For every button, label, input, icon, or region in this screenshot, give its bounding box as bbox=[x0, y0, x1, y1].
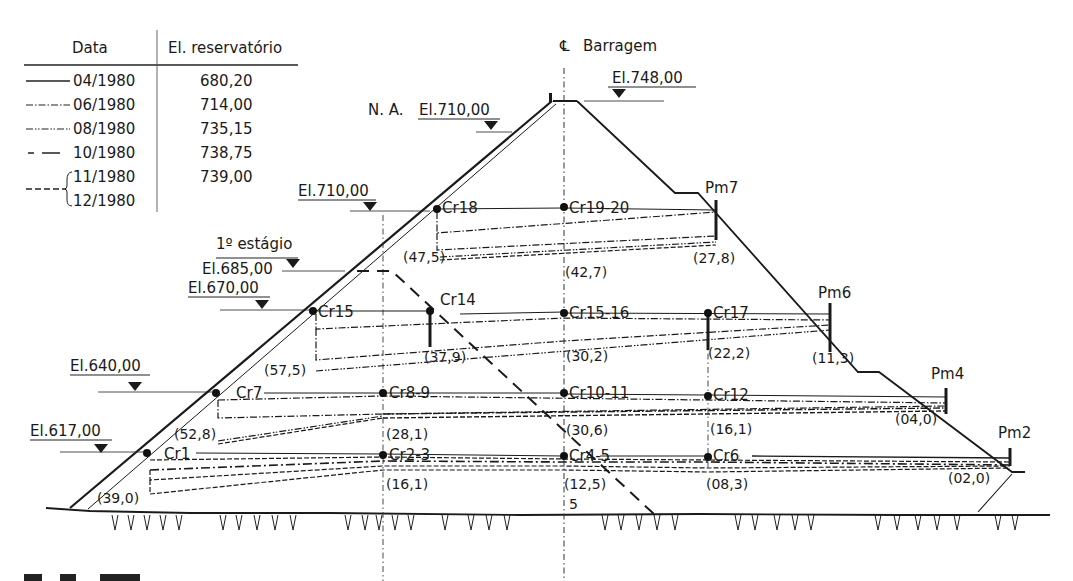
na-prefix-label: N. A. bbox=[368, 101, 404, 119]
settlement-value: (28,1) bbox=[386, 426, 428, 442]
instrument-label: Cr12 bbox=[713, 386, 749, 404]
settlement-value: (08,3) bbox=[706, 476, 748, 492]
settlement-value: (22,2) bbox=[708, 345, 750, 361]
instrument-label: Cr8-9 bbox=[389, 384, 430, 402]
crossarm-cr14 bbox=[426, 307, 434, 315]
instrument-label: Cr15 bbox=[318, 303, 354, 321]
settlement-value: (11,3) bbox=[812, 350, 854, 366]
crossarm-cr6 bbox=[704, 453, 712, 461]
instrument-label: Pm4 bbox=[931, 365, 964, 383]
legend-elevation: 738,75 bbox=[200, 144, 253, 162]
crossarm-cr19-20 bbox=[560, 203, 568, 211]
instrument-label: Cr19-20 bbox=[569, 199, 629, 217]
crossarm-cr12 bbox=[704, 392, 712, 400]
elevation-617-label: El.617,00 bbox=[30, 422, 101, 440]
legend-date: 12/1980 bbox=[73, 192, 135, 210]
dam-outline bbox=[46, 93, 1050, 515]
instrument-label: Cr18 bbox=[442, 199, 478, 217]
settlement-value: (39,0) bbox=[97, 490, 139, 506]
instrument-label: Pm2 bbox=[998, 424, 1031, 442]
settlement-value: (16,1) bbox=[386, 476, 428, 492]
legend-elevation: 714,00 bbox=[200, 96, 253, 114]
legend-date: 10/1980 bbox=[73, 144, 135, 162]
crossarm-cr4-5 bbox=[560, 452, 568, 460]
crossarm-cr1 bbox=[143, 449, 151, 457]
crossarm-cr8-9 bbox=[379, 389, 387, 397]
settlement-value: (12,5) bbox=[564, 476, 606, 492]
elevation-640-label: El.640,00 bbox=[70, 357, 141, 375]
settlement-value: (04,0) bbox=[895, 411, 937, 427]
settlement-value: (02,0) bbox=[948, 470, 990, 486]
elevation-685-label: El.685,00 bbox=[202, 260, 273, 278]
legend-date: 08/1980 bbox=[73, 120, 135, 138]
instrument-label: Cr2-3 bbox=[389, 446, 430, 464]
elevation-710-label: El.710,00 bbox=[298, 182, 369, 200]
settlement-value: (47,5) bbox=[403, 249, 445, 265]
first-stage-label: 1º estágio bbox=[216, 235, 292, 253]
legend-elevation: 680,20 bbox=[200, 72, 253, 90]
legend-date: 04/1980 bbox=[73, 72, 135, 90]
instrument-label: Cr4-5 bbox=[569, 447, 610, 465]
crossarm-cr17 bbox=[704, 309, 712, 317]
settlement-value: (27,8) bbox=[693, 250, 735, 266]
instrument-label: Cr10-11 bbox=[569, 384, 629, 402]
settlement-value: (30,2) bbox=[566, 348, 608, 364]
elevation-670-label: El.670,00 bbox=[188, 279, 259, 297]
legend-elevation: 739,00 bbox=[200, 168, 253, 186]
instrument-label: Pm6 bbox=[818, 284, 851, 302]
foundation-hatch bbox=[112, 515, 1018, 530]
legend-elevation: 735,15 bbox=[200, 120, 253, 138]
instrument-label: Cr14 bbox=[440, 291, 476, 309]
crossarm-cr10-11 bbox=[560, 389, 568, 397]
crossarm-cr7 bbox=[212, 389, 220, 397]
settlement-value: (16,1) bbox=[710, 421, 752, 437]
crossarm-cr18 bbox=[433, 205, 441, 213]
instrument-label: Cr15-16 bbox=[569, 304, 629, 322]
crossarm-cr15 bbox=[309, 307, 317, 315]
foundation-mark: 5 bbox=[569, 496, 578, 512]
settlement-value: (52,8) bbox=[174, 426, 216, 442]
na-elevation-label: El.710,00 bbox=[419, 101, 490, 119]
instrument-label: Cr7 bbox=[236, 384, 262, 402]
settlement-value: (42,7) bbox=[565, 264, 607, 280]
caption-fragment bbox=[60, 574, 76, 581]
settlement-value: (30,6) bbox=[566, 422, 608, 438]
legend: Data El. reservatório 04/1980 680,20 06/… bbox=[24, 30, 298, 212]
centerline-symbol: ℄ bbox=[559, 37, 570, 55]
legend-brace bbox=[64, 172, 72, 206]
legend-date: 11/1980 bbox=[73, 168, 135, 186]
instrument-label: Cr6 bbox=[713, 447, 739, 465]
instrument-label: Cr1 bbox=[164, 445, 190, 463]
instrument-label: Pm7 bbox=[705, 179, 738, 197]
legend-date: 06/1980 bbox=[73, 96, 135, 114]
crest-elevation-label: El.748,00 bbox=[612, 69, 683, 87]
legend-header-date: Data bbox=[72, 39, 108, 57]
parapet bbox=[549, 93, 552, 102]
settlement-value: (57,5) bbox=[264, 362, 306, 378]
legend-header-elevation: El. reservatório bbox=[168, 39, 282, 57]
crossarm-cr15-16 bbox=[560, 309, 568, 317]
centerline-label: Barragem bbox=[583, 37, 657, 55]
instrument-label: Cr17 bbox=[713, 304, 749, 322]
caption-fragment bbox=[100, 574, 140, 581]
crossarm-cr2-3 bbox=[379, 451, 387, 459]
dam-settlement-diagram: Data El. reservatório 04/1980 680,20 06/… bbox=[0, 0, 1073, 581]
caption-fragment bbox=[24, 574, 42, 581]
settlement-value: (37,9) bbox=[424, 349, 466, 365]
